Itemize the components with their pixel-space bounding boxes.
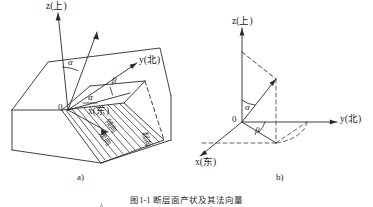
panel-b-drawing <box>185 0 373 180</box>
x-axis-line-b <box>200 122 242 156</box>
beta-label-b: β <box>255 126 259 135</box>
x-axis-label-b: x(东) <box>195 158 216 168</box>
origin-label-b: 0 <box>232 115 237 124</box>
n-vector-arrowhead <box>93 32 99 40</box>
triangle-hypotenuse <box>242 52 276 79</box>
projection-dashed-lines <box>200 79 307 143</box>
n-vector-line-b <box>242 79 276 122</box>
panel-b-vector-diagram: z(上) ^n y(北) x(东) 0 α β b) <box>185 0 373 180</box>
origin-label-a: 0 <box>58 103 63 112</box>
figure-caption: 图1-1 断层面产状及其法向量 <box>0 193 373 207</box>
n-vector-arrowhead-b <box>270 79 276 86</box>
z-axis-arrowhead-b <box>240 28 245 36</box>
block-inner-ridge-mid <box>124 81 145 103</box>
beta-arc <box>110 87 113 95</box>
panel-a-block-diagram: z(上) ^n y(北) x(东) 0 α β α 倾向 走向 起向 a) <box>0 0 190 180</box>
panel-a-drawing <box>0 0 190 180</box>
alpha-label-a-top: α <box>68 58 73 67</box>
y-axis-arrowhead <box>130 63 138 69</box>
block-inner-ridge-top <box>90 81 145 86</box>
alpha-label-a-lower: α <box>88 93 93 102</box>
beta-label-a: β <box>112 76 116 85</box>
alpha-arc-top <box>63 67 79 71</box>
y-axis-label-b: y(北) <box>340 115 361 125</box>
alpha-label-b: α <box>245 103 250 112</box>
beta-arc-b <box>259 122 265 132</box>
figure-container: z(上) ^n y(北) x(东) 0 α β α 倾向 走向 起向 a) <box>0 0 373 207</box>
panel-b-tag: b) <box>276 172 284 182</box>
z-axis-label-a: z(上) <box>46 2 67 12</box>
y-axis-label-a: y(北) <box>139 56 160 66</box>
y-axis-line <box>68 63 137 110</box>
z-axis-arrowhead <box>56 13 61 21</box>
block-front-bottom-edge <box>12 150 101 163</box>
panel-a-tag: a) <box>77 172 84 182</box>
z-axis-label-b: z(上) <box>232 17 253 27</box>
x-axis-label-a: x(东) <box>88 107 109 117</box>
y-axis-arrowhead-b <box>330 120 337 125</box>
z-axis-line <box>58 13 68 110</box>
